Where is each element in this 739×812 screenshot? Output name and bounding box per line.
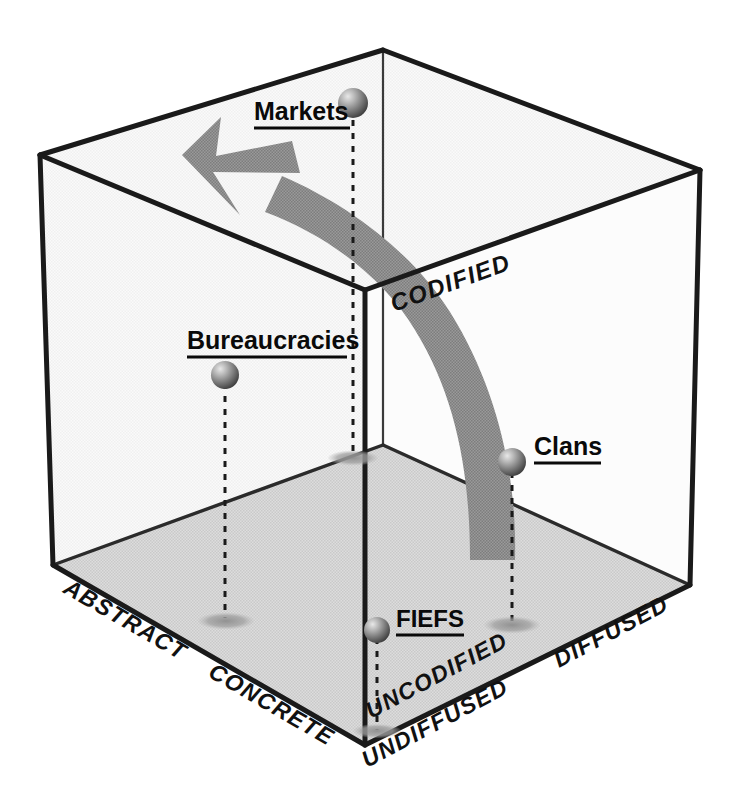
node-label-markets-text: Markets: [254, 97, 349, 125]
node-label-clans-text: Clans: [534, 432, 602, 460]
shadow-bureaucracies: [198, 613, 254, 630]
node-label-fiefs[interactable]: FIEFS: [396, 605, 464, 635]
node-label-bureaucracies-text: Bureaucracies: [187, 326, 359, 354]
node-label-clans[interactable]: Clans: [534, 432, 602, 463]
sphere-fiefs[interactable]: [364, 617, 390, 643]
figure-root: Markets Bureaucracies Clans FIEFS CODIFI…: [0, 0, 739, 812]
sphere-bureaucracies[interactable]: [211, 361, 239, 389]
shadow-markets: [328, 451, 378, 466]
node-label-bureaucracies[interactable]: Bureaucracies: [187, 326, 359, 357]
sphere-clans[interactable]: [498, 448, 526, 476]
ispace-cube-diagram: Markets Bureaucracies Clans FIEFS CODIFI…: [0, 0, 739, 812]
node-label-markets[interactable]: Markets: [254, 97, 350, 128]
node-label-fiefs-text: FIEFS: [396, 605, 464, 632]
